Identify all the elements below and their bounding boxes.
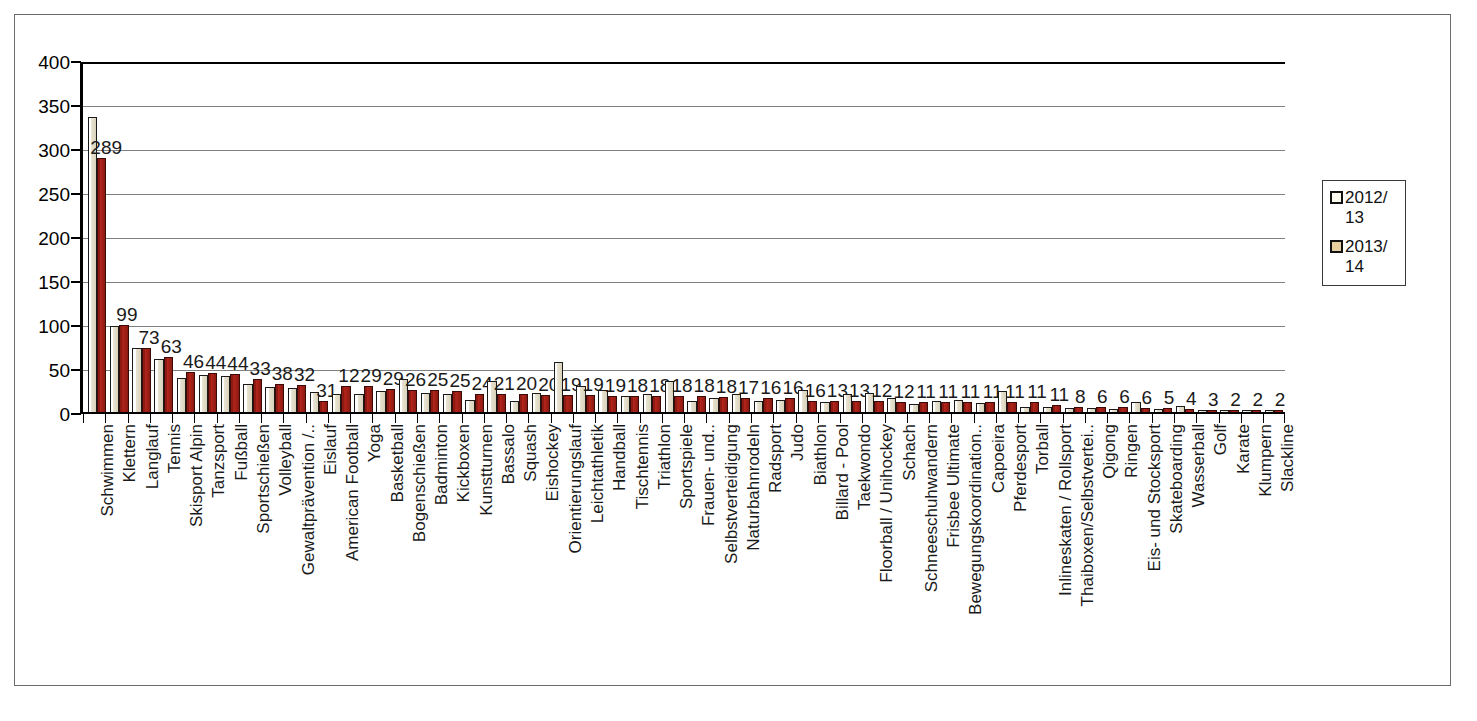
bar-2013-14[interactable]: 73 <box>142 348 151 412</box>
bar-2012-13[interactable] <box>1242 410 1251 412</box>
bar-2013-14[interactable]: 11 <box>919 402 928 412</box>
bar-2012-13[interactable] <box>687 401 696 412</box>
bar-2012-13[interactable] <box>1043 407 1052 412</box>
bar-group[interactable]: 12 <box>330 62 352 412</box>
bar-group[interactable]: 18 <box>685 62 707 412</box>
bar-2013-14[interactable]: 5 <box>1163 408 1172 412</box>
bar-group[interactable]: 6 <box>1107 62 1129 412</box>
bar-2013-14[interactable]: 31 <box>319 401 328 412</box>
bar-group[interactable]: 73 <box>130 62 152 412</box>
bar-2012-13[interactable] <box>243 384 252 412</box>
bar-group[interactable]: 24 <box>463 62 485 412</box>
bar-group[interactable]: 18 <box>641 62 663 412</box>
bar-2012-13[interactable] <box>1109 409 1118 412</box>
bar-2013-14[interactable]: 2 <box>1274 410 1283 412</box>
bar-group[interactable]: 11 <box>974 62 996 412</box>
bar-2013-14[interactable]: 32 <box>297 385 306 412</box>
bar-2012-13[interactable] <box>265 387 274 412</box>
bar-group[interactable]: 289 <box>86 62 108 412</box>
bar-2013-14[interactable]: 44 <box>208 373 217 412</box>
bar-2012-13[interactable] <box>621 396 630 412</box>
bar-2013-14[interactable]: 12 <box>341 386 350 412</box>
bar-2013-14[interactable]: 18 <box>719 397 728 412</box>
bar-2013-14[interactable]: 8 <box>1074 407 1083 412</box>
bar-2012-13[interactable] <box>332 394 341 412</box>
bar-group[interactable]: 21 <box>486 62 508 412</box>
bar-group[interactable]: 46 <box>175 62 197 412</box>
legend-item-2012-13[interactable]: 2012/13 <box>1330 188 1399 227</box>
bar-2012-13[interactable] <box>1087 408 1096 412</box>
bar-2013-14[interactable]: 6 <box>1141 408 1150 412</box>
bar-2012-13[interactable] <box>1176 406 1185 412</box>
bar-group[interactable]: 25 <box>419 62 441 412</box>
bar-group[interactable]: 13 <box>841 62 863 412</box>
bar-group[interactable]: 3 <box>1196 62 1218 412</box>
bar-2012-13[interactable] <box>643 394 652 412</box>
bar-group[interactable]: 12 <box>885 62 907 412</box>
bar-group[interactable]: 19 <box>574 62 596 412</box>
bar-2012-13[interactable] <box>288 388 297 412</box>
bar-2012-13[interactable] <box>1265 410 1274 412</box>
bar-2013-14[interactable]: 29 <box>386 389 395 412</box>
bar-group[interactable]: 19 <box>552 62 574 412</box>
bar-2013-14[interactable]: 16 <box>785 398 794 412</box>
bar-group[interactable]: 44 <box>197 62 219 412</box>
bar-2013-14[interactable]: 3 <box>1207 410 1216 412</box>
bar-2012-13[interactable] <box>1131 402 1140 412</box>
bar-2013-14[interactable]: 18 <box>652 396 661 412</box>
bar-2013-14[interactable]: 2 <box>1229 410 1238 412</box>
bar-2012-13[interactable] <box>776 400 785 412</box>
bar-group[interactable]: 6 <box>1085 62 1107 412</box>
bar-2013-14[interactable]: 24 <box>475 394 484 412</box>
bar-2012-13[interactable] <box>465 400 474 412</box>
bar-2013-14[interactable]: 11 <box>1007 402 1016 412</box>
bar-2013-14[interactable]: 19 <box>586 395 595 412</box>
bar-2013-14[interactable]: 29 <box>364 386 373 412</box>
bar-2012-13[interactable] <box>820 402 829 412</box>
bar-2012-13[interactable] <box>88 117 97 412</box>
bar-2012-13[interactable] <box>376 391 385 412</box>
bar-2013-14[interactable]: 44 <box>230 374 239 412</box>
bar-2013-14[interactable]: 20 <box>519 394 528 412</box>
bar-2013-14[interactable]: 13 <box>852 401 861 412</box>
bar-group[interactable]: 20 <box>508 62 530 412</box>
bar-group[interactable]: 11 <box>996 62 1018 412</box>
bar-group[interactable]: 63 <box>153 62 175 412</box>
legend-item-2013-14[interactable]: 2013/14 <box>1330 237 1399 276</box>
bar-group[interactable]: 11 <box>1041 62 1063 412</box>
bar-2012-13[interactable] <box>443 394 452 412</box>
bar-2013-14[interactable]: 33 <box>253 379 262 412</box>
bar-2013-14[interactable]: 20 <box>541 395 550 412</box>
bar-2012-13[interactable] <box>1154 409 1163 412</box>
bar-group[interactable]: 17 <box>730 62 752 412</box>
bar-2013-14[interactable]: 2 <box>1252 410 1261 412</box>
bar-group[interactable]: 16 <box>797 62 819 412</box>
bar-2013-14[interactable]: 11 <box>963 402 972 412</box>
bar-group[interactable]: 11 <box>930 62 952 412</box>
bar-2013-14[interactable]: 11 <box>941 402 950 412</box>
bar-2012-13[interactable] <box>1065 408 1074 412</box>
bar-2013-14[interactable]: 4 <box>1185 409 1194 412</box>
bar-group[interactable]: 19 <box>597 62 619 412</box>
bar-2013-14[interactable]: 38 <box>275 384 284 412</box>
bar-2013-14[interactable]: 99 <box>119 325 128 412</box>
bar-2013-14[interactable]: 6 <box>1118 407 1127 412</box>
bar-2012-13[interactable] <box>976 403 985 412</box>
bar-2013-14[interactable]: 18 <box>674 396 683 412</box>
bar-2013-14[interactable]: 46 <box>186 372 195 412</box>
bar-2013-14[interactable]: 16 <box>763 398 772 412</box>
bar-2012-13[interactable] <box>510 401 519 412</box>
bar-group[interactable]: 33 <box>241 62 263 412</box>
bar-2013-14[interactable]: 12 <box>874 401 883 412</box>
bar-2013-14[interactable]: 289 <box>97 158 106 412</box>
bar-group[interactable]: 29 <box>375 62 397 412</box>
bar-2013-14[interactable]: 6 <box>1096 407 1105 412</box>
bar-2013-14[interactable]: 16 <box>808 401 817 412</box>
bar-2013-14[interactable]: 11 <box>985 402 994 412</box>
bar-group[interactable]: 2 <box>1218 62 1240 412</box>
bar-group[interactable]: 18 <box>708 62 730 412</box>
bar-2012-13[interactable] <box>1020 407 1029 412</box>
bar-group[interactable]: 44 <box>219 62 241 412</box>
bar-2012-13[interactable] <box>421 393 430 412</box>
bar-2013-14[interactable]: 25 <box>430 390 439 412</box>
